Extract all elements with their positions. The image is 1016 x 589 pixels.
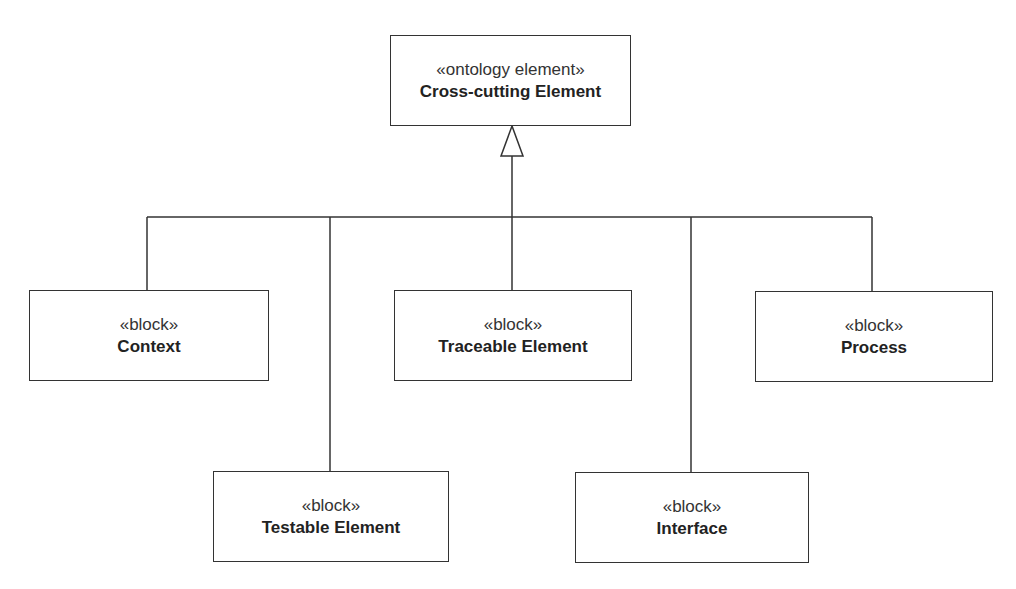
block-interface[interactable]: «block» Interface bbox=[575, 472, 809, 563]
stereotype-label: «block» bbox=[302, 495, 361, 517]
stereotype-label: «block» bbox=[120, 314, 179, 336]
block-testable-element[interactable]: «block» Testable Element bbox=[213, 471, 449, 562]
block-name: Process bbox=[841, 337, 907, 359]
block-context[interactable]: «block» Context bbox=[29, 290, 269, 381]
stereotype-label: «block» bbox=[845, 315, 904, 337]
block-cross-cutting-element[interactable]: «ontology element» Cross-cutting Element bbox=[390, 35, 631, 126]
generalization-arrowhead-icon bbox=[501, 126, 523, 156]
stereotype-label: «block» bbox=[663, 496, 722, 518]
block-name: Traceable Element bbox=[438, 336, 587, 358]
stereotype-label: «block» bbox=[484, 314, 543, 336]
block-name: Interface bbox=[657, 518, 728, 540]
block-name: Context bbox=[117, 336, 180, 358]
block-name: Testable Element bbox=[262, 517, 401, 539]
block-traceable-element[interactable]: «block» Traceable Element bbox=[394, 290, 632, 381]
stereotype-label: «ontology element» bbox=[436, 59, 584, 81]
block-name: Cross-cutting Element bbox=[420, 81, 601, 103]
block-process[interactable]: «block» Process bbox=[755, 291, 993, 382]
